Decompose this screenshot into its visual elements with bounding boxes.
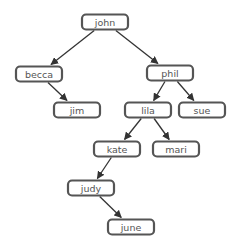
tree-diagram: johnbeccaphiljimlilasuekatemarijudyjune [0,0,238,248]
edge-phil-to-sue [177,82,193,101]
node-label: jim [69,105,85,116]
node-phil: phil [147,66,193,81]
node-kate: kate [94,142,140,157]
edge-phil-to-lila [154,82,165,101]
node-judy: judy [68,181,114,196]
node-label: june [120,222,142,233]
node-label: judy [80,183,102,194]
nodes-layer: johnbeccaphiljimlilasuekatemarijudyjune [16,15,225,235]
node-becca: becca [16,67,62,82]
edge-john-to-phil [116,31,158,64]
node-jim: jim [54,103,100,118]
node-mari: mari [153,142,199,157]
node-label: john [94,17,116,28]
node-label: kate [107,144,128,155]
node-lila: lila [125,103,171,118]
node-label: becca [25,69,53,80]
edge-lila-to-mari [154,119,169,140]
node-label: sue [194,105,211,116]
edge-kate-to-judy [97,158,111,179]
node-label: lila [141,105,155,116]
node-john: john [82,15,128,30]
edge-judy-to-june [100,197,122,218]
node-sue: sue [179,103,225,118]
edge-becca-to-jim [48,83,67,101]
node-label: mari [165,144,187,155]
edge-john-to-becca [51,31,94,65]
node-label: phil [161,68,178,79]
edge-lila-to-kate [125,119,142,140]
node-june: june [108,220,154,235]
